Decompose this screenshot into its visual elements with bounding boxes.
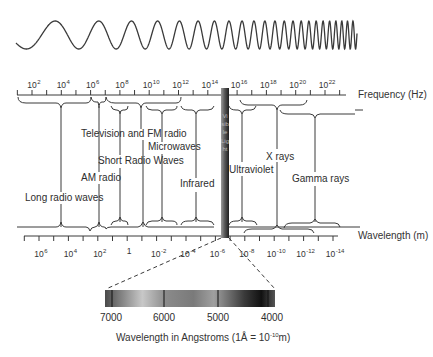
band-label-x-rays: X rays [266,152,294,162]
upper-brackets [18,97,363,118]
angstrom-label-4000: 4000 [261,312,283,323]
frequency-tick-label: 106 [86,78,99,90]
wavelength-axis [24,236,338,241]
wavelength-tick-label: 102 [93,247,106,259]
wavelength-tick-label: 10-6 [210,247,225,259]
frequency-tick-label: 104 [57,78,70,90]
angstrom-label-5000: 5000 [207,312,229,323]
frequency-tick-label: 1014 [201,78,218,90]
wavelength-tick-label: 10-12 [296,247,315,259]
angstrom-label-6000: 6000 [153,312,175,323]
band-label-gamma-rays: Gamma rays [292,174,349,184]
lower-brackets [17,217,360,233]
band-label-tv-fm: Television and FM radio [81,129,187,139]
frequency-tick-label: 108 [115,78,128,90]
wavelength-tick-label: 106 [34,247,47,259]
wavelength-axis-label: Wavelength (m) [358,230,428,241]
band-label-microwaves: Microwaves [148,142,201,152]
frequency-tick-label: 1012 [172,78,189,90]
band-label-short-radio: Short Radio Waves [98,156,184,166]
angstrom-caption-exponent: -10 [270,332,279,338]
wavelength-tick-label: 10-4 [180,247,195,259]
wavelength-tick-label: 104 [64,247,77,259]
frequency-tick-label: 1018 [260,78,277,90]
wavelength-tick-label: 1 [127,247,132,256]
band-label-ultraviolet: Ultraviolet [229,165,273,175]
wavelength-tick-label: 10-2 [151,247,166,259]
band-label-visible-light: Visible Light [221,112,229,153]
wave-chirp [16,21,357,49]
frequency-axis-label: Frequency (Hz) [358,89,427,100]
visible-light-band [221,88,229,238]
frequency-axis [17,90,346,95]
wavelength-tick-label: 10-10 [267,247,286,259]
angstrom-label-7000: 7000 [100,312,122,323]
wavelength-tick-label: 10-8 [239,247,254,259]
em-spectrum-diagram: 1021041061081010101210141016101810201022… [0,0,433,357]
band-label-long-radio: Long radio waves [25,193,103,203]
visible-spectrum-bar [105,290,275,307]
frequency-tick-label: 102 [27,78,40,90]
frequency-tick-label: 1022 [319,78,336,90]
band-label-am-radio: AM radio [81,173,121,183]
frequency-tick-label: 1010 [143,78,160,90]
angstrom-caption-prefix: Wavelength in Angstroms (1Å = 10 [116,332,270,343]
angstrom-caption-suffix: m) [279,332,291,343]
leader-lines [61,108,315,227]
diagram-graphics [0,0,433,357]
wavelength-tick-label: 10-14 [326,247,345,259]
frequency-tick-label: 1020 [289,78,306,90]
angstrom-caption: Wavelength in Angstroms (1Å = 10-10m) [116,332,290,343]
band-label-infrared: Infrared [180,179,214,189]
frequency-tick-label: 1016 [231,78,248,90]
